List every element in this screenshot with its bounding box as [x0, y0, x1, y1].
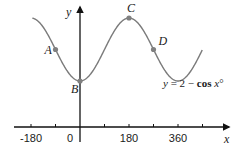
point-label-d: D	[158, 34, 168, 48]
tick-labels-layer: -1800180360	[20, 132, 187, 144]
x-tick-label: 360	[169, 132, 187, 144]
point-label-c: C	[127, 1, 136, 15]
point-d	[151, 47, 156, 52]
equation-x: x	[211, 77, 219, 89]
chart: -1800180360 y x ABCD y = 2 − cos x°	[0, 0, 244, 148]
equation-deg: °	[219, 77, 223, 89]
point-c	[126, 15, 131, 20]
x-tick-label: -180	[20, 132, 42, 144]
x-axis-label: x	[223, 132, 230, 146]
point-label-a: A	[44, 43, 53, 57]
point-a	[53, 47, 58, 52]
point-label-b: B	[71, 82, 79, 96]
curve-equation-label: y = 2 − cos x°	[162, 77, 224, 89]
equation-cos: cos	[197, 77, 212, 89]
y-axis-label: y	[65, 5, 72, 19]
x-tick-label: 0	[67, 132, 73, 144]
x-tick-label: 180	[120, 132, 138, 144]
equation-eq: = 2 −	[168, 77, 197, 89]
